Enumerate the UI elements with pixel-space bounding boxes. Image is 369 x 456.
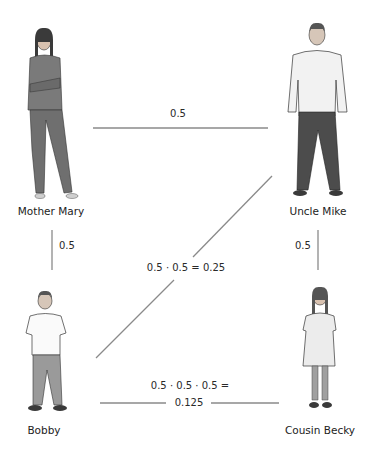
edge-label-bobby-becky-line2: 0.125 <box>175 397 204 409</box>
cousin-becky-figure <box>303 287 336 408</box>
edge-bobby-uncle-upper <box>193 176 272 257</box>
relatedness-diagram: Mother Mary Uncle Mike Bobby Cousin Beck… <box>0 0 369 456</box>
edge-label-bobby-becky-line1: 0.5 · 0.5 · 0.5 = <box>151 380 229 392</box>
person-name-bobby: Bobby <box>27 424 60 437</box>
person-name-mother-mary: Mother Mary <box>18 205 84 218</box>
edge-bobby-uncle-lower <box>96 280 174 358</box>
edge-label-bobby-uncle: 0.5 · 0.5 = 0.25 <box>147 262 225 274</box>
edge-label-mother-uncle: 0.5 <box>170 108 186 120</box>
person-name-cousin-becky: Cousin Becky <box>285 424 355 437</box>
person-name-uncle-mike: Uncle Mike <box>290 205 347 218</box>
edge-label-uncle-becky: 0.5 <box>295 240 311 252</box>
mother-mary-figure <box>28 28 78 199</box>
bobby-figure <box>26 291 67 411</box>
edge-label-mother-bobby: 0.5 <box>59 240 75 252</box>
uncle-mike-figure <box>288 23 347 196</box>
